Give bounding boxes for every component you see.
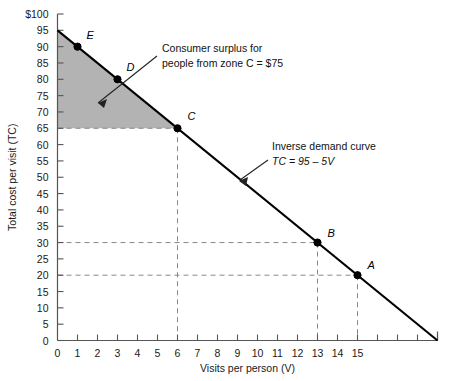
x-tick-label-14: 14 — [332, 347, 344, 359]
data-point-label-D: D — [127, 61, 135, 73]
y-tick-label-90: 90 — [37, 41, 49, 53]
y-tick-label-50: 50 — [37, 171, 49, 183]
inverse-demand-leader-line — [240, 160, 268, 180]
data-point-B — [314, 239, 321, 246]
data-point-A — [354, 272, 361, 279]
x-tick-label-0: 0 — [55, 347, 61, 359]
x-tick-label-9: 9 — [235, 347, 241, 359]
y-tick-label-20: 20 — [37, 269, 49, 281]
data-point-label-E: E — [87, 29, 95, 41]
y-tick-label-95: 95 — [37, 24, 49, 36]
x-tick-label-15: 15 — [352, 347, 364, 359]
inverse-demand-annotation-line2: TC = 95 – 5V — [272, 155, 335, 167]
y-tick-label-75: 75 — [37, 90, 49, 102]
x-tick-label-1: 1 — [75, 347, 81, 359]
x-tick-label-8: 8 — [215, 347, 221, 359]
x-tick-label-6: 6 — [175, 347, 181, 359]
y-tick-label-55: 55 — [37, 155, 49, 167]
x-tick-label-3: 3 — [115, 347, 121, 359]
data-point-E — [74, 43, 81, 50]
y-tick-label-60: 60 — [37, 139, 49, 151]
x-tick-label-5: 5 — [155, 347, 161, 359]
y-tick-label-65: 65 — [37, 122, 49, 134]
y-tick-label-10: 10 — [37, 302, 49, 314]
data-point-label-C: C — [188, 110, 196, 122]
y-tick-label-30: 30 — [37, 237, 49, 249]
axis-titles: Visits per person (V)Total cost per visi… — [6, 124, 295, 374]
y-tick-label-40: 40 — [37, 204, 49, 216]
y-tick-label-25: 25 — [37, 253, 49, 265]
data-point-D — [114, 76, 121, 83]
x-tick-label-7: 7 — [195, 347, 201, 359]
figure-container: 05101520253035404550556065707580859095$1… — [0, 0, 459, 381]
y-tick-label-70: 70 — [37, 106, 49, 118]
x-axis-title: Visits per person (V) — [200, 362, 295, 374]
data-point-C — [174, 125, 181, 132]
y-tick-label-100: $100 — [25, 8, 49, 20]
x-tick-label-4: 4 — [135, 347, 141, 359]
consumer-surplus-annotation-line2: people from zone C = $75 — [162, 57, 283, 69]
x-tick-label-13: 13 — [312, 347, 324, 359]
x-tick-label-10: 10 — [252, 347, 264, 359]
y-tick-label-45: 45 — [37, 188, 49, 200]
x-tick-label-2: 2 — [95, 347, 101, 359]
y-tick-label-80: 80 — [37, 73, 49, 85]
data-point-label-B: B — [328, 227, 335, 239]
chart-canvas: 05101520253035404550556065707580859095$1… — [0, 0, 459, 381]
x-tick-label-11: 11 — [272, 347, 283, 359]
y-tick-label-5: 5 — [43, 318, 49, 330]
inverse-demand-annotation-line1: Inverse demand curve — [272, 140, 376, 152]
data-point-label-A: A — [367, 259, 375, 271]
y-tick-label-0: 0 — [43, 335, 49, 347]
y-tick-label-85: 85 — [37, 57, 49, 69]
y-tick-label-15: 15 — [37, 286, 49, 298]
y-tick-label-35: 35 — [37, 220, 49, 232]
consumer-surplus-annotation-line1: Consumer surplus for — [162, 42, 263, 54]
y-axis-title: Total cost per visit (TC) — [6, 124, 18, 231]
x-tick-label-12: 12 — [292, 347, 304, 359]
